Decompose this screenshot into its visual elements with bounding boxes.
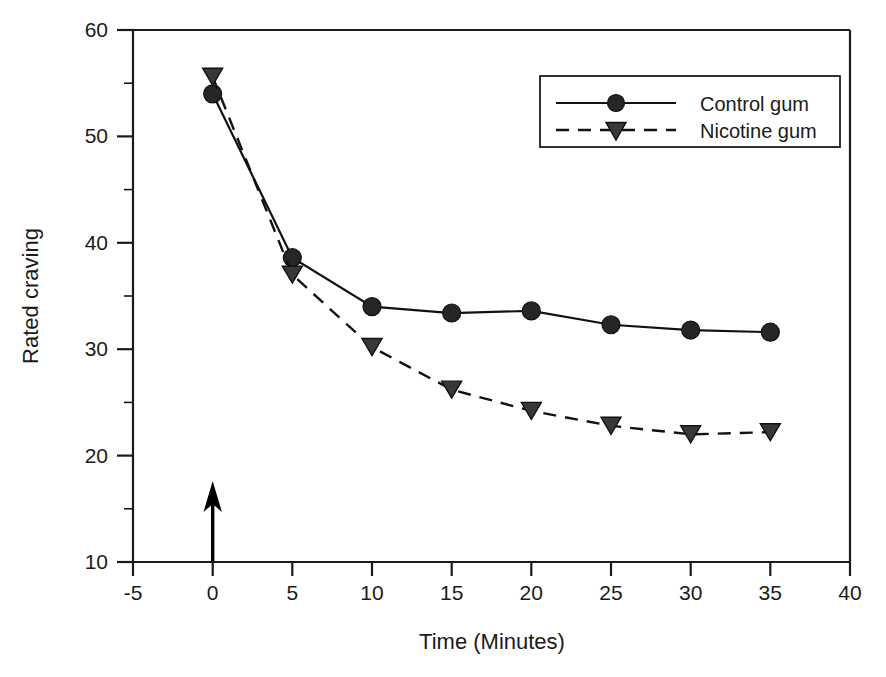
x-tick-label: 0 xyxy=(207,581,219,604)
data-point-circle-icon xyxy=(443,304,461,322)
chart-legend: Control gum Nicotine gum xyxy=(540,76,840,147)
y-axis-minor-ticks xyxy=(124,83,133,509)
line-chart-svg: 10 20 30 40 50 60 -5 0 5 10 15 20 25 30 … xyxy=(0,0,886,677)
legend-marker-circle-icon xyxy=(608,95,625,112)
data-point-circle-icon xyxy=(602,316,620,334)
gum-administration-arrow xyxy=(204,481,222,561)
x-tick-label: -5 xyxy=(124,581,143,604)
legend-label-control-gum: Control gum xyxy=(700,93,809,115)
data-point-triangle-icon xyxy=(203,68,223,85)
x-tick-label: 35 xyxy=(759,581,782,604)
chart-figure: 10 20 30 40 50 60 -5 0 5 10 15 20 25 30 … xyxy=(0,0,886,677)
data-point-circle-icon xyxy=(283,249,301,267)
legend-label-nicotine-gum: Nicotine gum xyxy=(700,120,817,142)
data-point-circle-icon xyxy=(522,302,540,320)
y-tick-label: 60 xyxy=(85,18,108,41)
data-point-circle-icon xyxy=(363,298,381,316)
x-axis-ticks xyxy=(133,562,850,576)
x-tick-label: 15 xyxy=(440,581,463,604)
y-tick-label: 40 xyxy=(85,231,108,254)
x-tick-label: 10 xyxy=(360,581,383,604)
y-tick-label: 50 xyxy=(85,124,108,147)
x-axis-tick-labels: -5 0 5 10 15 20 25 30 35 40 xyxy=(124,581,862,604)
y-tick-label: 20 xyxy=(85,444,108,467)
y-tick-label: 30 xyxy=(85,337,108,360)
x-tick-label: 5 xyxy=(286,581,298,604)
x-axis-title: Time (Minutes) xyxy=(419,629,565,654)
y-axis-tick-labels: 10 20 30 40 50 60 xyxy=(85,18,108,573)
y-axis-title: Rated craving xyxy=(18,228,43,364)
data-point-circle-icon xyxy=(204,85,222,103)
x-tick-label: 30 xyxy=(679,581,702,604)
data-point-circle-icon xyxy=(682,321,700,339)
data-point-triangle-icon xyxy=(521,402,541,419)
data-point-triangle-icon xyxy=(362,339,382,356)
x-tick-label: 25 xyxy=(599,581,622,604)
x-tick-label: 20 xyxy=(520,581,543,604)
x-tick-label: 40 xyxy=(838,581,861,604)
y-tick-label: 10 xyxy=(85,550,108,573)
data-point-circle-icon xyxy=(761,323,779,341)
data-point-triangle-icon xyxy=(442,381,462,398)
